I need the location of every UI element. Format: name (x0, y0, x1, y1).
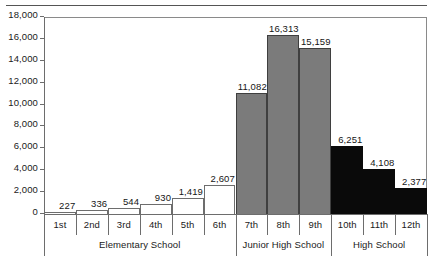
x-axis-category-label: 9th (299, 215, 331, 235)
x-axis-category-label: 5th (172, 215, 204, 235)
bar-value-label: 6,251 (311, 134, 362, 145)
school-group-label: High School (331, 236, 427, 256)
school-group-separator (44, 215, 45, 256)
x-axis-category-label: 12th (395, 215, 427, 235)
x-axis-cell-separator (363, 215, 364, 235)
bar-chart: 02,0004,0006,0008,00010,00012,00014,0001… (0, 0, 433, 269)
bar (236, 93, 268, 214)
school-group-separator (427, 215, 428, 256)
bar (108, 208, 140, 214)
y-axis-tick-label: 6,000 (14, 141, 38, 151)
school-group-separator (331, 215, 332, 256)
bar (395, 188, 427, 214)
bar (204, 185, 236, 214)
bar-value-label: 2,607 (184, 173, 235, 184)
bar-value-label: 4,108 (343, 157, 394, 168)
x-axis-cell-separator (204, 215, 205, 235)
x-axis-category-label: 4th (140, 215, 172, 235)
y-axis-tick-label: 2,000 (14, 185, 38, 195)
x-axis-category-label: 8th (267, 215, 299, 235)
x-axis-category-label: 6th (204, 215, 236, 235)
school-group-label: Junior High School (236, 236, 332, 256)
x-axis-category-label: 3rd (108, 215, 140, 235)
x-axis-cell-separator (299, 215, 300, 235)
x-axis-category-label: 7th (236, 215, 268, 235)
y-axis-tick-label: 18,000 (8, 10, 38, 20)
bar-value-label: 1,419 (152, 186, 203, 197)
y-axis-tick-label: 8,000 (14, 119, 38, 129)
y-axis-tick-label: 4,000 (14, 163, 38, 173)
y-axis-tick-label: 12,000 (8, 76, 38, 86)
x-axis-cell-separator (76, 215, 77, 235)
bar-value-label: 2,377 (375, 176, 426, 187)
bar (140, 204, 172, 214)
bar (267, 35, 299, 214)
x-axis-cell-separator (267, 215, 268, 235)
y-axis-tick-label: 16,000 (8, 32, 38, 42)
x-axis-category-label: 10th (331, 215, 363, 235)
x-axis-category-label: 1st (44, 215, 76, 235)
bar (299, 48, 331, 214)
bars-layer (44, 17, 427, 214)
bar-value-label: 11,082 (216, 81, 267, 92)
x-axis-cell-separator (140, 215, 141, 235)
school-group-separator (236, 215, 237, 256)
bar-value-label: 15,159 (280, 36, 331, 47)
x-axis-cell-separator (108, 215, 109, 235)
y-axis-tick-label: 10,000 (8, 98, 38, 108)
bar (44, 212, 76, 214)
bar (331, 146, 363, 214)
x-axis-category-label: 2nd (76, 215, 108, 235)
x-axis-cell-separator (395, 215, 396, 235)
y-axis-tick-label: 14,000 (8, 54, 38, 64)
x-axis-category-label: 11th (363, 215, 395, 235)
x-axis-cell-separator (172, 215, 173, 235)
school-group-label: Elementary School (44, 236, 236, 256)
top-divider-rule (6, 5, 427, 6)
bar (76, 210, 108, 214)
bar (172, 198, 204, 214)
bar-value-label: 16,313 (248, 23, 299, 34)
